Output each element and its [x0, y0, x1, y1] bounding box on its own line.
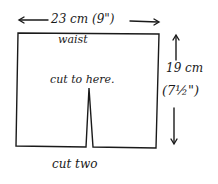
waist-label: waist	[58, 34, 88, 45]
cut-to-here-label: cut to here.	[50, 74, 115, 85]
width-label: 23 cm (9")	[51, 13, 115, 25]
pattern-piece-outline	[16, 33, 159, 148]
width-arrow-right	[130, 21, 158, 22]
height-label-in: (7½")	[162, 84, 199, 97]
height-label-cm: 19 cm	[166, 62, 203, 74]
cut-two-instruction: cut two	[52, 158, 97, 170]
